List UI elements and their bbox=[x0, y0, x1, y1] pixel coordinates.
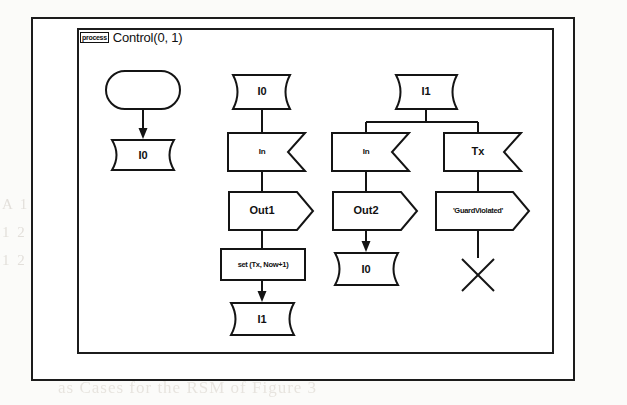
node-state-i1-col2[interactable]: I1 bbox=[231, 303, 294, 335]
node-output-out2[interactable]: Out2 bbox=[333, 192, 417, 230]
node-output-guard-violated[interactable]: 'GuardViolated' bbox=[436, 192, 529, 230]
node-input-in-col2-label: In bbox=[259, 147, 266, 156]
node-input-tx-label: Tx bbox=[472, 145, 486, 157]
sdl-diagram-canvas: I0 I0 In Out1 set (Tx, Now+1) bbox=[0, 0, 627, 405]
node-output-out2-label: Out2 bbox=[353, 204, 378, 216]
node-state-i0-col3[interactable]: I0 bbox=[335, 253, 398, 285]
node-input-in-col2[interactable]: In bbox=[228, 133, 305, 171]
node-input-in-col3[interactable]: In bbox=[332, 133, 409, 171]
column-1: I0 bbox=[106, 71, 180, 170]
node-stop-symbol[interactable] bbox=[462, 259, 494, 291]
node-output-guard-violated-label: 'GuardViolated' bbox=[453, 206, 504, 215]
node-state-i1-col2-label: I1 bbox=[257, 313, 266, 325]
connector-task-to-state-i1 bbox=[258, 280, 267, 302]
node-state-i0-col2[interactable]: I0 bbox=[233, 75, 290, 109]
connector-start-to-state-i0 bbox=[139, 109, 148, 139]
node-start-symbol[interactable] bbox=[106, 71, 180, 109]
node-state-i0-col1[interactable]: I0 bbox=[112, 140, 174, 170]
process-title: Control(0, 1) bbox=[113, 30, 183, 45]
column-2: I0 In Out1 set (Tx, Now+1) I1 bbox=[221, 75, 313, 335]
process-keyword-badge: process bbox=[80, 32, 109, 43]
node-state-i1-col3[interactable]: I1 bbox=[396, 75, 457, 109]
process-header: process Control(0, 1) bbox=[80, 30, 182, 45]
node-output-out1[interactable]: Out1 bbox=[229, 192, 313, 230]
node-state-i0-col1-label: I0 bbox=[138, 149, 147, 161]
node-input-in-col3-label: In bbox=[363, 147, 370, 156]
node-task-set-timer[interactable]: set (Tx, Now+1) bbox=[221, 249, 305, 280]
node-state-i0-col3-label: I0 bbox=[361, 263, 370, 275]
node-input-tx[interactable]: Tx bbox=[444, 133, 521, 171]
branch-connector-from-state-i1 bbox=[366, 109, 478, 133]
column-3: I1 In Out2 I0 bbox=[332, 75, 529, 291]
node-task-set-timer-label: set (Tx, Now+1) bbox=[238, 260, 290, 269]
connector-out2-to-state-i0 bbox=[362, 230, 371, 252]
node-state-i1-col3-label: I1 bbox=[421, 85, 430, 97]
node-output-out1-label: Out1 bbox=[249, 204, 274, 216]
node-state-i0-col2-label: I0 bbox=[257, 85, 266, 97]
